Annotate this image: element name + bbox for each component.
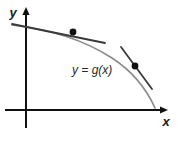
x-axis-arrowhead-icon (160, 106, 168, 113)
y-axis-label: y (8, 5, 17, 20)
figure-container: y x y = g(x) (0, 0, 178, 141)
tangent-point-1 (70, 29, 77, 36)
function-equation-label: y = g(x) (71, 63, 112, 77)
y-axis-arrowhead-icon (22, 7, 29, 15)
graph-canvas: y x y = g(x) (0, 0, 178, 141)
x-axis-label: x (161, 114, 170, 129)
tangent-point-2 (132, 63, 139, 70)
x-axis (5, 106, 168, 113)
